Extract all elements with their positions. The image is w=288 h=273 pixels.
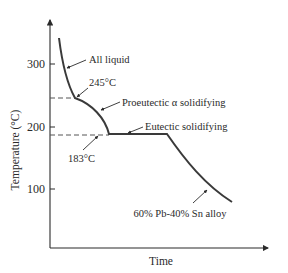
arrow-alloy — [193, 190, 207, 203]
cooling-curve — [59, 38, 232, 202]
x-axis-title: Time — [149, 255, 173, 267]
arrow-245 — [77, 88, 88, 97]
arrow-183 — [83, 136, 98, 150]
arrow-all-liquid — [67, 60, 86, 68]
label-proeutectic: Proeutectic α solidifying — [122, 97, 226, 108]
label-eutectic: Eutectic solidifying — [145, 121, 228, 132]
arrow-eutectic — [128, 127, 143, 133]
cooling-curve-chart: 300 200 100 Temperature (°C) Time All li… — [0, 0, 288, 273]
y-tick-label-100: 100 — [27, 182, 45, 196]
label-245: 245°C — [89, 77, 116, 88]
label-alloy: 60% Pb-40% Sn alloy — [133, 208, 227, 219]
y-axis-title: Temperature (°C) — [9, 109, 22, 190]
arrow-proeutectic — [101, 102, 120, 110]
label-183: 183°C — [68, 153, 95, 164]
label-all-liquid: All liquid — [89, 54, 130, 65]
y-tick-label-200: 200 — [27, 120, 45, 134]
y-tick-label-300: 300 — [27, 57, 45, 71]
